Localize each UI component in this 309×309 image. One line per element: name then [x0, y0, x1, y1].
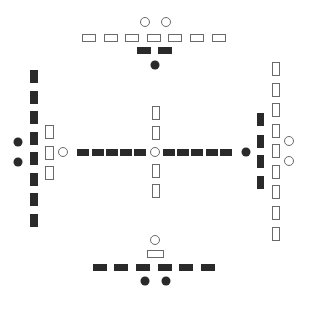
- yang-circle: [162, 18, 171, 27]
- yang-rect: [273, 166, 280, 179]
- yin-rect: [257, 155, 264, 168]
- yang-rect: [273, 228, 280, 241]
- yang-rect: [169, 35, 182, 42]
- yin-dot: [151, 61, 160, 70]
- yang-rect: [83, 35, 96, 42]
- yin-rect: [191, 149, 203, 156]
- yin-rect: [179, 264, 193, 271]
- yang-rect: [126, 35, 139, 42]
- yang-circle: [141, 18, 150, 27]
- yang-circle: [151, 236, 160, 245]
- yin-rect: [257, 135, 264, 148]
- yang-circle: [59, 148, 68, 157]
- yin-rect: [30, 91, 38, 104]
- yang-rect: [213, 35, 226, 42]
- yin-rect: [136, 264, 150, 271]
- yin-rect: [120, 149, 132, 156]
- yin-rect: [30, 70, 38, 83]
- yin-rect: [30, 214, 38, 227]
- yin-rect: [30, 132, 38, 145]
- yang-rect: [153, 165, 160, 178]
- yin-rect: [257, 113, 264, 126]
- yin-rect: [158, 264, 172, 271]
- yin-rect: [30, 111, 38, 124]
- yin-rect: [30, 152, 38, 165]
- yin-rect: [137, 47, 151, 54]
- yang-rect: [153, 107, 160, 120]
- yin-rect: [206, 149, 218, 156]
- yin-rect: [220, 149, 232, 156]
- yin-dot: [141, 277, 150, 286]
- yang-rect: [153, 185, 160, 198]
- yang-rect: [191, 35, 204, 42]
- yang-rect: [148, 251, 164, 258]
- yang-rect: [153, 127, 160, 140]
- yang-rect: [46, 147, 54, 160]
- yin-rect: [114, 264, 128, 271]
- yin-rect: [77, 149, 89, 156]
- yang-rect: [273, 63, 280, 76]
- yang-circle: [285, 157, 294, 166]
- yang-circle: [285, 137, 294, 146]
- yang-rect: [273, 145, 280, 158]
- yang-rect: [273, 207, 280, 220]
- yang-rect: [273, 84, 280, 97]
- yin-rect: [134, 149, 146, 156]
- yang-rect: [273, 186, 280, 199]
- yang-rect: [273, 104, 280, 117]
- yang-rect: [273, 125, 280, 138]
- yin-rect: [92, 149, 104, 156]
- yin-dot: [242, 148, 251, 157]
- yin-dot: [14, 158, 23, 167]
- yin-rect: [177, 149, 189, 156]
- yang-circle: [151, 148, 160, 157]
- yin-rect: [93, 264, 107, 271]
- yang-rect: [46, 167, 54, 180]
- yang-rect: [105, 35, 118, 42]
- yang-rect: [46, 126, 54, 139]
- yin-rect: [158, 47, 172, 54]
- yin-dot: [162, 277, 171, 286]
- he-tu-diagram: [0, 0, 309, 309]
- yin-rect: [163, 149, 175, 156]
- yin-dot: [14, 138, 23, 147]
- yin-rect: [30, 193, 38, 206]
- yin-rect: [257, 176, 264, 189]
- yin-rect: [106, 149, 118, 156]
- yin-rect: [201, 264, 215, 271]
- yang-rect: [148, 35, 161, 42]
- yin-rect: [30, 173, 38, 186]
